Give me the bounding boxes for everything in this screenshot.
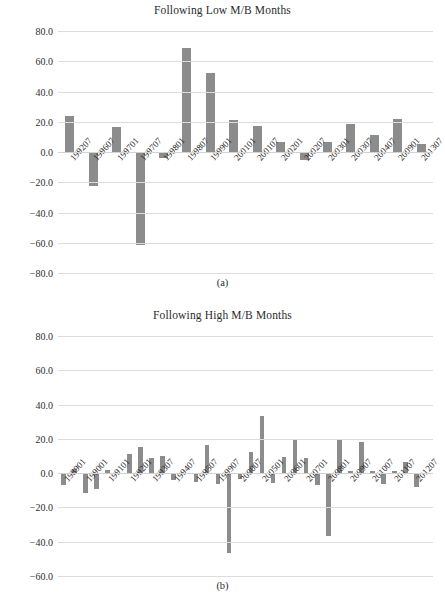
- bar: [127, 454, 132, 473]
- y-axis-tick-label: −20.0: [9, 502, 53, 513]
- bar: [89, 152, 98, 186]
- bar: [136, 152, 145, 245]
- bar: [323, 142, 332, 152]
- gridline: [58, 61, 433, 62]
- bar: [182, 48, 191, 152]
- y-axis-tick-label: 0.0: [9, 468, 53, 479]
- bar: [326, 473, 331, 536]
- bar: [194, 473, 199, 482]
- zero-axis-line: [58, 152, 433, 153]
- y-axis-tick-label: −40.0: [9, 207, 53, 218]
- bar: [205, 445, 210, 473]
- gridline: [58, 405, 433, 406]
- gridline: [58, 542, 433, 543]
- figure-panel-a: Following Low M/B Months 199207199607199…: [0, 0, 445, 305]
- gridline: [58, 507, 433, 508]
- bar: [149, 458, 154, 473]
- bar: [276, 142, 285, 152]
- bar: [112, 127, 121, 152]
- gridline: [58, 370, 433, 371]
- bar: [393, 119, 402, 152]
- gridline: [58, 122, 433, 123]
- bar: [304, 458, 309, 473]
- gridline: [58, 336, 433, 337]
- zero-axis-line: [58, 473, 433, 474]
- y-axis-tick-label: 40.0: [9, 86, 53, 97]
- y-axis-tick-label: −20.0: [9, 177, 53, 188]
- bar: [417, 144, 426, 152]
- bar: [61, 473, 66, 485]
- y-axis-tick-label: −60.0: [9, 237, 53, 248]
- bar: [282, 457, 287, 473]
- bar: [94, 473, 99, 489]
- subfigure-caption-a: (a): [0, 277, 445, 288]
- bar: [216, 473, 221, 484]
- bar: [381, 473, 386, 484]
- bar: [300, 152, 309, 160]
- y-axis-tick-label: 80.0: [9, 331, 53, 342]
- subfigure-caption-b: (b): [0, 580, 445, 591]
- bar: [249, 452, 254, 473]
- y-axis-tick-label: 0.0: [9, 147, 53, 158]
- gridline: [58, 576, 433, 577]
- bar: [293, 440, 298, 473]
- gridline: [58, 439, 433, 440]
- plot-area-b: 1989011990011991011992011993071994071995…: [58, 336, 433, 576]
- bar: [253, 126, 262, 152]
- bar: [138, 447, 143, 474]
- bar: [315, 473, 320, 485]
- bar: [229, 120, 238, 152]
- y-axis-tick-label: 60.0: [9, 365, 53, 376]
- y-axis-tick-label: −40.0: [9, 536, 53, 547]
- gridline: [58, 213, 433, 214]
- bar: [171, 473, 176, 480]
- gridline: [58, 182, 433, 183]
- y-axis-tick-label: 40.0: [9, 399, 53, 410]
- y-axis-tick-label: 60.0: [9, 56, 53, 67]
- y-axis-tick-label: 20.0: [9, 433, 53, 444]
- bar: [370, 135, 379, 152]
- y-axis-tick-label: 80.0: [9, 26, 53, 37]
- bar: [83, 473, 88, 493]
- plot-area-a: 1992071996071997011997071998011998071999…: [58, 31, 433, 273]
- gridline: [58, 243, 433, 244]
- bar: [403, 462, 408, 473]
- bar: [359, 442, 364, 473]
- gridline: [58, 31, 433, 32]
- bar: [337, 440, 342, 473]
- bar-series-b: [58, 336, 433, 576]
- gridline: [58, 273, 433, 274]
- chart-title-b: Following High M/B Months: [0, 309, 445, 321]
- bar: [206, 73, 215, 152]
- bar: [414, 473, 419, 487]
- bar: [260, 416, 265, 473]
- gridline: [58, 92, 433, 93]
- bar: [271, 473, 276, 482]
- chart-title-a: Following Low M/B Months: [0, 4, 445, 16]
- bar: [346, 124, 355, 152]
- figure-panel-b: Following High M/B Months 19890119900119…: [0, 305, 445, 611]
- bar: [160, 456, 165, 473]
- y-axis-tick-label: 20.0: [9, 116, 53, 127]
